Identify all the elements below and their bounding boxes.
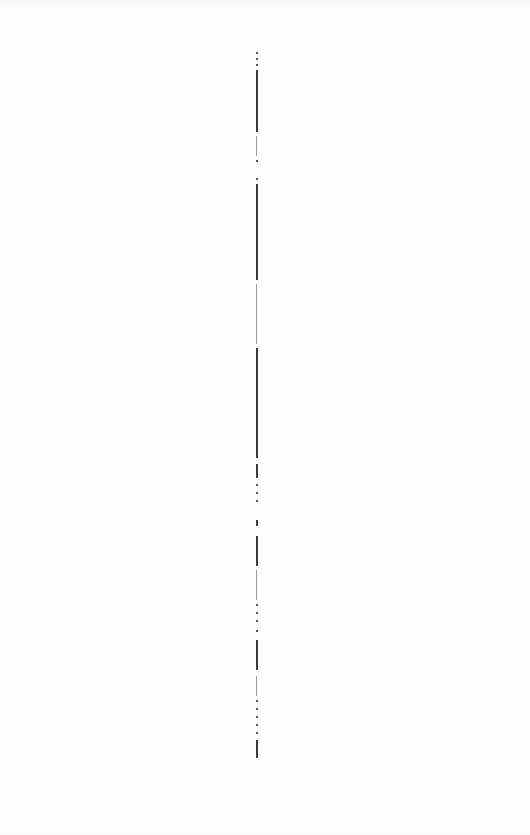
divider-segment [256, 640, 258, 670]
divider-segment [256, 676, 257, 696]
divider-segment [256, 630, 258, 632]
divider-segment [256, 464, 258, 478]
divider-segment [256, 184, 258, 280]
divider-segment [256, 492, 258, 494]
divider-segment [256, 570, 257, 600]
divider-segment [256, 716, 258, 718]
divider-segment [256, 700, 258, 702]
divider-segment [256, 520, 258, 526]
divider-segment [256, 740, 258, 758]
vertical-divider-line [256, 0, 258, 835]
divider-segment [256, 536, 258, 566]
divider-segment [256, 284, 257, 344]
divider-segment [256, 732, 258, 734]
bottom-edge [0, 831, 530, 835]
divider-segment [256, 708, 258, 710]
divider-segment [256, 348, 258, 458]
divider-segment [256, 58, 258, 60]
divider-segment [256, 500, 258, 502]
divider-segment [256, 136, 257, 156]
divider-segment [256, 604, 258, 606]
divider-segment [256, 612, 258, 614]
divider-segment [256, 620, 258, 622]
divider-segment [256, 64, 258, 66]
divider-segment [256, 52, 258, 54]
top-edge [0, 0, 530, 6]
divider-segment [256, 160, 258, 162]
divider-segment [256, 484, 258, 486]
divider-segment [256, 70, 258, 132]
divider-segment [256, 178, 258, 180]
divider-segment [256, 724, 258, 726]
